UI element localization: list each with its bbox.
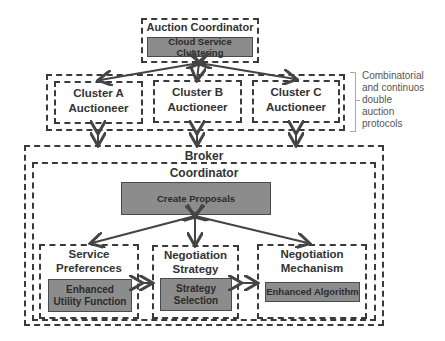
cluster-c-auctioneer-label: Auctioneer	[254, 101, 338, 115]
negotiation-strategy-title-2: Strategy	[154, 263, 237, 277]
cloud-service-clustering-box: Cloud Service Clustering	[147, 37, 253, 57]
service-preferences-title-1: Service	[41, 248, 137, 262]
protocol-bracket	[350, 72, 356, 132]
negotiation-mechanism-title-2: Mechanism	[259, 262, 365, 276]
cluster-c-auctioneer: Cluster C Auctioneer	[252, 80, 340, 123]
negotiation-mechanism-title-1: Negotiation	[259, 248, 365, 262]
cluster-b-auctioneer-label: Auctioneer	[155, 101, 240, 115]
cluster-b-auctioneer: Cluster B Auctioneer	[153, 80, 242, 123]
protocol-note: Combinatorial and continuos double aucti…	[362, 70, 424, 130]
coordinator-title: Coordinator	[34, 166, 374, 180]
cluster-a-label: Cluster A	[56, 87, 141, 101]
cluster-c-label: Cluster C	[254, 86, 338, 100]
negotiation-mechanism-box: Negotiation Mechanism Enhanced Algorithm	[257, 244, 367, 319]
service-preferences-title-2: Preferences	[41, 262, 137, 276]
auction-coordinator-box: Auction Coordinator Cloud Service Cluste…	[141, 18, 259, 63]
negotiation-strategy-box: Negotiation Strategy Strategy Selection	[152, 245, 239, 319]
service-preferences-box: Service Preferences Enhanced Utility Fun…	[39, 244, 139, 319]
negotiation-strategy-title-1: Negotiation	[154, 249, 237, 263]
auction-coordinator-title: Auction Coordinator	[143, 21, 257, 34]
enhanced-algorithm-box: Enhanced Algorithm	[265, 282, 360, 302]
cluster-a-auctioneer: Cluster A Auctioneer	[54, 81, 143, 124]
cluster-b-label: Cluster B	[155, 86, 240, 100]
cluster-a-auctioneer-label: Auctioneer	[56, 102, 141, 116]
enhanced-utility-function-box: Enhanced Utility Function	[48, 279, 132, 312]
strategy-selection-box: Strategy Selection	[160, 278, 232, 311]
protocol-bracket-tick	[355, 100, 360, 101]
create-proposals-box: Create Proposals	[121, 182, 271, 215]
